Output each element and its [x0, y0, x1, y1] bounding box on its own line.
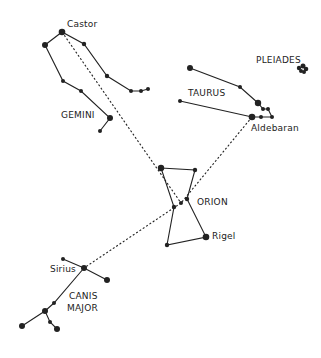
label-rigel: Rigel: [212, 231, 236, 241]
label-gemini: GEMINI: [61, 110, 95, 120]
label-canis: CANIS: [69, 291, 98, 301]
label-orion: ORION: [197, 197, 228, 207]
label-sirius: Sirius: [50, 264, 76, 274]
label-pleiades: PLEIADES: [256, 55, 301, 65]
label-taurus: TAURUS: [188, 88, 225, 98]
constellation-lines: [0, 0, 321, 358]
label-major: MAJOR: [67, 303, 98, 313]
label-aldebaran: Aldebaran: [251, 123, 299, 133]
star-map: Castor GEMINI PLEIADES TAURUS Aldebaran …: [0, 0, 321, 358]
label-castor: Castor: [67, 19, 97, 29]
